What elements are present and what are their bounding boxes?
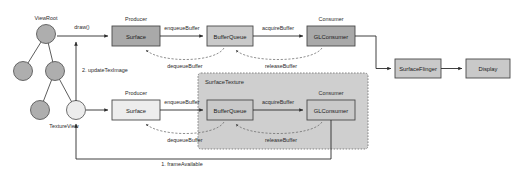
tree-node-textureview[interactable] — [67, 101, 86, 120]
label-frameavailable: 1. frameAvailable — [161, 161, 203, 167]
arrow-glconsumer-top-to-surfaceflinger — [355, 36, 391, 69]
arrow-release-top — [236, 48, 322, 60]
tree-node-viewroot[interactable] — [37, 25, 56, 44]
label-surface-top: Surface — [126, 34, 146, 40]
label-surfaceflinger: SurfaceFlinger — [399, 66, 437, 72]
arrow-dequeue-top — [146, 48, 224, 60]
label-enqueue-top: enqueueBuffer — [164, 25, 199, 31]
diagram-canvas: ViewRoot TextureView SurfaceTexture draw… — [0, 0, 522, 174]
label-surface-bottom: Surface — [126, 108, 146, 114]
label-release-bottom: releaseBuffer — [265, 137, 297, 143]
label-updateteximage: 2. updateTexImage — [82, 67, 128, 73]
caption-producer-top: Producer — [125, 16, 147, 22]
label-enqueue-bottom: enqueueBuffer — [164, 99, 199, 105]
caption-consumer-top: Consumer — [319, 16, 344, 22]
label-dequeue-top: dequeueBuffer — [167, 63, 202, 69]
label-release-top: releaseBuffer — [265, 63, 297, 69]
label-acquire-top: acquireBuffer — [262, 25, 294, 31]
tree-node-left-child[interactable] — [14, 62, 33, 81]
label-bufferqueue-top: BufferQueue — [214, 34, 247, 40]
composition-chain: SurfaceFlinger Display — [395, 59, 510, 78]
label-dequeue-bottom: dequeueBuffer — [167, 137, 202, 143]
view-tree: ViewRoot TextureView — [14, 15, 86, 129]
top-pipeline-row: draw() Producer Surface enqueueBuffer Bu… — [57, 16, 391, 69]
caption-producer-bottom: Producer — [125, 90, 147, 96]
label-display: Display — [478, 66, 497, 72]
graphics-pipeline-diagram: ViewRoot TextureView SurfaceTexture draw… — [0, 0, 522, 174]
tree-node-grandchild-left[interactable] — [31, 101, 50, 120]
caption-consumer-bottom: Consumer — [319, 90, 344, 96]
label-bufferqueue-bottom: BufferQueue — [214, 108, 247, 114]
label-glconsumer-top: GLConsumer — [314, 34, 349, 40]
textureview-label: TextureView — [49, 123, 78, 129]
tree-node-right-child[interactable] — [46, 62, 65, 81]
label-acquire-bottom: acquireBuffer — [262, 99, 294, 105]
surfacetexture-group-label: SurfaceTexture — [205, 79, 244, 85]
label-draw: draw() — [74, 24, 89, 30]
viewroot-label: ViewRoot — [35, 15, 58, 21]
label-glconsumer-bottom: GLConsumer — [314, 108, 349, 114]
